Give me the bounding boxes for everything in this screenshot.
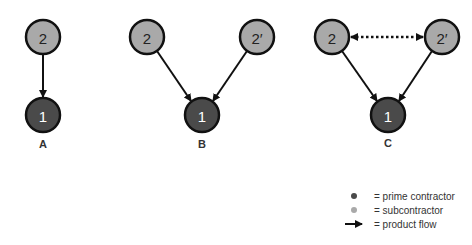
node-subcontractor: 2 xyxy=(315,20,349,54)
node-label: 1 xyxy=(198,108,206,125)
supply-chain-diagram: 2 1 A 2 2′ 1 B 2 xyxy=(0,0,472,245)
node-prime-contractor: 1 xyxy=(26,98,60,132)
legend: = prime contractor = subcontractor = pro… xyxy=(345,191,456,230)
node-label: 1 xyxy=(39,108,47,125)
node-label: 1 xyxy=(384,108,392,125)
diagram-b: 2 2′ 1 B xyxy=(130,20,274,150)
diagram-c: 2 2′ 1 C xyxy=(315,20,459,149)
product-flow-arrow xyxy=(157,51,191,101)
node-label: 2′ xyxy=(251,30,262,47)
diagram-label: C xyxy=(384,137,392,149)
diagram-a: 2 1 A xyxy=(26,20,60,150)
prime-contractor-dot-icon xyxy=(351,193,357,199)
product-flow-arrow xyxy=(213,51,247,101)
node-prime-contractor: 1 xyxy=(371,98,405,132)
node-label: 2′ xyxy=(436,30,447,47)
product-flow-arrow xyxy=(342,51,377,101)
node-subcontractor: 2 xyxy=(130,20,164,54)
node-label: 2 xyxy=(328,30,336,47)
node-prime-contractor: 1 xyxy=(185,98,219,132)
legend-product-flow: = product flow xyxy=(374,219,437,230)
product-flow-arrow xyxy=(399,51,432,101)
legend-subcontractor: = subcontractor xyxy=(374,205,444,216)
diagram-label: A xyxy=(39,138,47,150)
node-label: 2 xyxy=(39,30,47,47)
node-subcontractor-prime: 2′ xyxy=(240,20,274,54)
legend-prime-contractor: = prime contractor xyxy=(374,191,456,202)
node-label: 2 xyxy=(143,30,151,47)
node-subcontractor-prime: 2′ xyxy=(425,20,459,54)
diagram-label: B xyxy=(198,138,206,150)
subcontractor-dot-icon xyxy=(351,207,357,213)
node-subcontractor: 2 xyxy=(26,20,60,54)
